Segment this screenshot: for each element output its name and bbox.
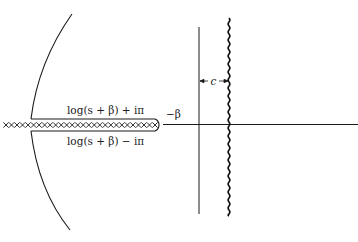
large-arc-upper — [31, 14, 72, 119]
large-arc-lower — [31, 131, 70, 230]
lower-branch-label: log(s + β) − iπ — [67, 135, 144, 147]
separation-label: c — [211, 75, 217, 87]
wavy-line — [228, 18, 230, 216]
branch-point-label: −β — [166, 108, 181, 120]
upper-branch-label: log(s + β) + iπ — [67, 104, 144, 116]
contour-diagram: c log(s + β) + iπ log(s + β) − iπ −β — [0, 0, 358, 242]
cross-marks — [3, 122, 157, 127]
branch-cut-crosses — [3, 122, 157, 127]
